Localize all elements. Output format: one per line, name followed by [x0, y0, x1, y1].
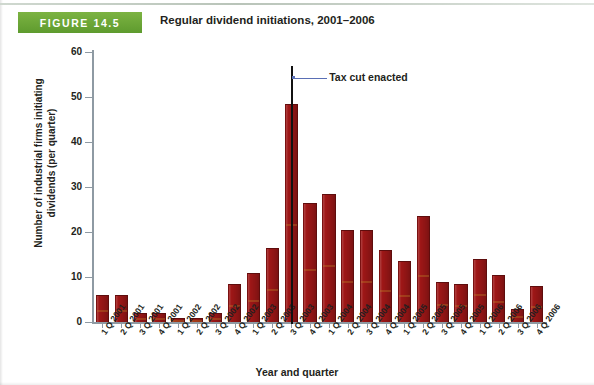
bar-slot	[489, 52, 508, 322]
bar-slot	[225, 52, 244, 322]
bar-slot	[320, 52, 339, 322]
bar-slot	[433, 52, 452, 322]
tax-cut-marker-line	[291, 66, 293, 324]
y-tick-label: 0	[42, 316, 82, 327]
y-tick-label: 50	[42, 91, 82, 102]
bar-slot	[112, 52, 131, 322]
bar-slot	[187, 52, 206, 322]
bar-series	[93, 52, 546, 322]
y-tick-label: 20	[42, 226, 82, 237]
tax-cut-leader-line	[293, 78, 327, 79]
y-tick-label: 60	[42, 46, 82, 57]
bar-slot	[357, 52, 376, 322]
bar-slot	[93, 52, 112, 322]
tax-cut-annotation-label: Tax cut enacted	[329, 71, 408, 83]
bar-slot	[150, 52, 169, 322]
bar-slot	[263, 52, 282, 322]
figure-header: FIGURE 14.5 Regular dividend initiations…	[0, 12, 594, 36]
figure-number-badge: FIGURE 14.5	[18, 12, 142, 33]
page-edge-shadow-left	[0, 0, 3, 385]
bar-slot	[471, 52, 490, 322]
bar-slot	[452, 52, 471, 322]
y-tick-label: 30	[42, 181, 82, 192]
header-rule	[0, 3, 594, 5]
bar-slot	[395, 52, 414, 322]
y-tick	[85, 322, 94, 323]
bar-slot	[508, 52, 527, 322]
bar-slot	[376, 52, 395, 322]
bar-slot	[244, 52, 263, 322]
bar-slot	[414, 52, 433, 322]
bar-slot	[169, 52, 188, 322]
x-axis-title: Year and quarter	[0, 366, 594, 378]
bar-slot	[338, 52, 357, 322]
bar-slot	[206, 52, 225, 322]
y-tick-label: 40	[42, 136, 82, 147]
y-tick-label: 10	[42, 271, 82, 282]
bar-slot	[527, 52, 546, 322]
figure-title: Regular dividend initiations, 2001–2006	[160, 14, 375, 26]
bar-slot	[301, 52, 320, 322]
bar-slot	[131, 52, 150, 322]
